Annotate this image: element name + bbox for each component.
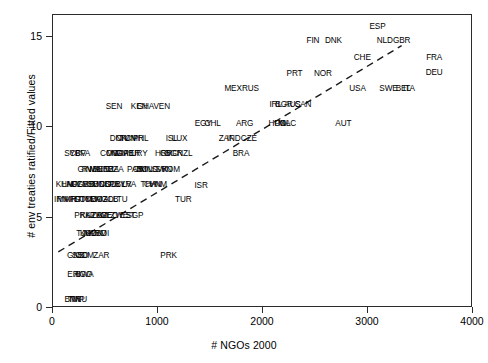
y-tick-label: 5 [0,211,42,223]
point-label: GBR [393,36,410,45]
point-label: NOR [314,68,332,77]
y-tick-label: 0 [0,301,42,313]
x-tick [52,307,53,313]
point-label: VEN [153,102,170,111]
point-label: CHE [354,53,371,62]
scatter-plot-figure: # env treaties ratified/Fitted values 05… [0,0,488,363]
point-label: ARG [236,118,253,127]
point-label: CZE [241,133,257,142]
point-label: LTU [113,195,128,204]
point-label: IND [227,133,241,142]
x-tick-label: 3000 [327,315,407,327]
point-label: USA [349,84,366,93]
point-label: ZAR [93,250,109,259]
y-tick-label: 15 [0,30,42,42]
x-tick-label: 0 [12,315,92,327]
x-tick-label: 2000 [222,315,302,327]
point-label: NRU [70,294,87,303]
point-label: SGP [126,210,143,219]
point-label: ITA [403,84,415,93]
y-tick [46,217,52,218]
point-label: TUR [175,195,192,204]
point-label: ISR [194,180,207,189]
point-label: FRA [426,53,442,62]
point-label: NZL [177,149,192,158]
point-label: BDI [96,228,109,237]
plot-area [52,14,472,307]
point-label: LVA [122,180,136,189]
x-tick [262,307,263,313]
point-label: ESP [369,21,385,30]
x-tick [367,307,368,313]
point-label: BRA [233,149,250,158]
point-label: SEN [106,102,123,111]
point-label: DNK [325,36,342,45]
point-label: COM [75,250,94,259]
y-axis-title: # env treaties ratified/Fitted values [25,31,37,281]
point-label: NLD [377,36,393,45]
point-label: DZA [107,164,123,173]
point-label: PRK [160,250,177,259]
x-tick [472,307,473,313]
point-label: MAC [278,118,296,127]
point-label: CAN [294,99,311,108]
point-label: AUT [335,118,351,127]
point-label: PHL [133,133,149,142]
point-label: ROM [161,164,180,173]
point-label: BFA [75,149,90,158]
point-label: RUS [242,84,259,93]
point-label: VNM [149,180,167,189]
x-tick [157,307,158,313]
point-label: BWA [76,270,94,279]
x-tick-label: 1000 [117,315,197,327]
point-label: DEU [426,67,443,76]
point-label: GHA [137,102,154,111]
y-tick-label: 10 [0,120,42,132]
point-label: CHL [205,118,221,127]
point-label: PRT [287,68,303,77]
point-label: FIN [306,36,319,45]
point-label: LUX [172,133,188,142]
y-tick [46,126,52,127]
x-tick-label: 4000 [432,315,488,327]
point-label: MEX [224,84,241,93]
x-axis-title: # NGOs 2000 [0,339,488,351]
point-label: URY [131,149,148,158]
y-tick [46,36,52,37]
